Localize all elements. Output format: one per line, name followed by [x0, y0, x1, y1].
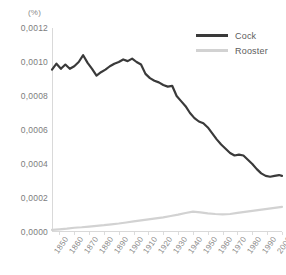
x-axis-tick-label: 1850: [53, 235, 71, 255]
legend-label: Rooster: [235, 46, 268, 56]
x-axis-tick-label: 1920: [157, 235, 175, 255]
x-axis-tick-label: 1880: [97, 235, 115, 255]
plot-area: [52, 28, 282, 232]
chart-legend: CockRooster: [196, 28, 286, 58]
x-axis-tick-mark: [148, 232, 149, 235]
y-axis-tick-label: 0,0006: [2, 125, 48, 135]
x-axis-tick-mark: [223, 232, 224, 235]
x-axis-tick-label: 1980: [246, 235, 264, 255]
x-axis-tick-mark: [119, 232, 120, 235]
x-axis-tick-mark: [282, 232, 283, 235]
legend-item[interactable]: Rooster: [196, 43, 286, 58]
y-axis-tick-label: 0,0008: [2, 91, 48, 101]
legend-label: Cock: [235, 31, 256, 41]
series-lines: [52, 28, 282, 232]
x-axis-tick-label: 1940: [186, 235, 204, 255]
x-axis-tick-mark: [163, 232, 164, 235]
y-axis-tick-label: 0,0002: [2, 193, 48, 203]
x-axis-tick-label: 1950: [201, 235, 219, 255]
x-axis-tick-label: 1870: [82, 235, 100, 255]
x-axis-tick-label: 1930: [171, 235, 189, 255]
x-axis-tick-label: 1970: [231, 235, 249, 255]
x-axis-tick-label: 1860: [68, 235, 86, 255]
y-axis-tick-label: 0,0010: [2, 57, 48, 67]
x-axis-tick-labels: 1850186018701880189019001910192019301940…: [52, 232, 282, 275]
x-axis-tick-mark: [178, 232, 179, 235]
line-chart: (%) 0,00120,00100,00080,00060,00040,0002…: [0, 0, 286, 275]
y-axis-tick-label: 0,0004: [2, 159, 48, 169]
y-axis-tick-label: 0,0012: [2, 23, 48, 33]
series-line-cock: [52, 55, 282, 177]
x-axis-tick-label: 1960: [216, 235, 234, 255]
x-axis-tick-mark: [89, 232, 90, 235]
x-axis-tick-mark: [237, 232, 238, 235]
x-axis-tick-label: 1910: [142, 235, 160, 255]
x-axis-tick-label: 1900: [127, 235, 145, 255]
y-axis-tick-labels: 0,00120,00100,00080,00060,00040,00020,00…: [0, 0, 48, 275]
legend-swatch-icon: [196, 49, 228, 52]
x-axis-tick-mark: [59, 232, 60, 235]
legend-swatch-icon: [196, 34, 228, 37]
x-axis-tick-mark: [252, 232, 253, 235]
y-axis-tick-label: 0,0000: [2, 227, 48, 237]
x-axis-tick-mark: [134, 232, 135, 235]
x-axis-tick-mark: [74, 232, 75, 235]
series-line-rooster: [52, 207, 282, 230]
x-axis-tick-mark: [208, 232, 209, 235]
x-axis-tick-label: 1890: [112, 235, 130, 255]
x-axis-tick-mark: [104, 232, 105, 235]
x-axis-tick-mark: [193, 232, 194, 235]
legend-item[interactable]: Cock: [196, 28, 286, 43]
x-axis-tick-mark: [267, 232, 268, 235]
x-axis-tick-label: 1990: [260, 235, 278, 255]
